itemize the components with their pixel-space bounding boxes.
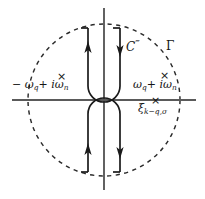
figure-canvas — [0, 0, 205, 199]
xi-subscript: k−q,σ — [144, 107, 167, 116]
label-sub-n: n — [64, 83, 69, 92]
xi-pole-label: ξk−q,σ — [138, 103, 167, 116]
contour-label-gamma: Γ — [166, 40, 174, 52]
label-omega: ω — [55, 78, 64, 91]
label-plus: + — [38, 78, 51, 91]
contour-integration-figure: × × × − ωq+ iωn ωq+ iωn ξk−q,σ C‴ Γ — [0, 0, 205, 199]
label-plus: + — [147, 78, 160, 91]
pole-label-upper-left: − ωq+ iωn — [12, 79, 69, 92]
contour-label-c: C‴ — [126, 40, 140, 53]
pole-label-upper-right: ωq+ iωn — [133, 79, 177, 92]
label-omega-2: ω — [163, 78, 172, 91]
contour-c-letter: C — [126, 40, 135, 54]
label-sub-n: n — [172, 83, 177, 92]
label-minus-omega: − ω — [12, 78, 34, 91]
label-omega: ω — [133, 78, 142, 91]
contour-primes: ‴ — [135, 39, 140, 49]
